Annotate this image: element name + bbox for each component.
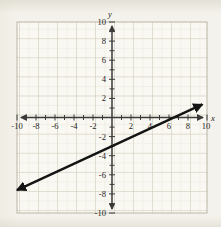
y-tick-label-neg-8: -8 <box>99 189 106 199</box>
y-tick-label-pos-10: 10 <box>97 17 106 27</box>
x-tick-label-neg-2: -2 <box>89 121 96 131</box>
x-axis-label: x <box>210 113 215 123</box>
x-tick-label-pos-2: 2 <box>129 121 133 131</box>
y-tick-label-pos-4: 4 <box>102 74 107 84</box>
x-tick-label-neg-6: -6 <box>51 121 59 131</box>
y-tick-label-neg-10: -10 <box>95 208 106 218</box>
y-axis-label: y <box>107 9 112 19</box>
y-tick-label-pos-2: 2 <box>102 93 106 103</box>
x-tick-label-neg-4: -4 <box>70 121 78 131</box>
x-tick-label-neg-8: -8 <box>32 121 39 131</box>
x-tick-label-pos-8: 8 <box>186 121 190 131</box>
y-tick-label-neg-2: -2 <box>99 132 106 142</box>
y-tick-label-neg-6: -6 <box>99 170 107 180</box>
graph-screenshot: -10 -8 -6 -4 -2 2 4 6 8 10 10 8 6 4 2 -2… <box>0 0 221 227</box>
x-tick-label-pos-10: 10 <box>202 121 211 131</box>
x-tick-label-neg-10: -10 <box>11 121 22 131</box>
x-tick-label-pos-6: 6 <box>167 121 172 131</box>
y-tick-label-pos-6: 6 <box>102 55 107 65</box>
coordinate-plane-graph: -10 -8 -6 -4 -2 2 4 6 8 10 10 8 6 4 2 -2… <box>0 0 221 227</box>
y-tick-label-pos-8: 8 <box>102 36 106 46</box>
